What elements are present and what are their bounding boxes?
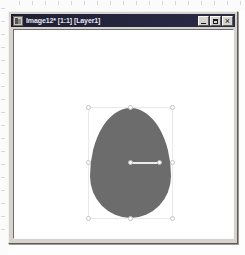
- window-controls: [198, 16, 234, 26]
- maximize-icon[interactable]: [210, 16, 221, 26]
- ruler-tick: [1, 229, 5, 230]
- rotation-pivot-knob-handle[interactable]: [157, 160, 162, 165]
- ruler-tick: [1, 151, 5, 152]
- ruler-tick: [136, 1, 137, 5]
- ruler-tick: [240, 1, 241, 5]
- ruler-tick: [1, 216, 5, 217]
- resize-handle-bottom-center[interactable]: [128, 216, 133, 221]
- ruler-tick: [149, 1, 150, 5]
- ruler-tick: [1, 164, 5, 165]
- resize-handle-bottom-left[interactable]: [86, 216, 91, 221]
- ruler-tick: [201, 1, 202, 5]
- ruler-tick: [214, 1, 215, 5]
- selected-object-group[interactable]: [88, 107, 173, 219]
- ruler-tick: [123, 1, 124, 5]
- ruler-tick: [1, 138, 5, 139]
- ruler-tick: [1, 47, 5, 48]
- rotation-pivot-center-handle[interactable]: [128, 160, 133, 165]
- ruler-tick: [1, 99, 5, 100]
- ruler-tick: [175, 1, 176, 5]
- ruler-tick: [32, 1, 33, 5]
- ruler-tick: [1, 190, 5, 191]
- ruler-tick: [1, 34, 5, 35]
- resize-handle-middle-left[interactable]: [86, 160, 91, 165]
- ruler-tick: [188, 1, 189, 5]
- image-document-icon: [13, 16, 23, 26]
- ruler-tick: [84, 1, 85, 5]
- ruler-tick: [45, 1, 46, 5]
- ruler-tick: [58, 1, 59, 5]
- resize-handle-top-left[interactable]: [86, 105, 91, 110]
- ruler-tick: [1, 8, 5, 9]
- application-backdrop: Image12* [1:1] [Layer1]: [0, 0, 245, 255]
- ruler-tick: [1, 73, 5, 74]
- vertical-ruler: [0, 0, 8, 255]
- ruler-tick: [1, 125, 5, 126]
- image-canvas[interactable]: [13, 29, 234, 239]
- horizontal-ruler: [0, 0, 245, 11]
- ruler-tick: [162, 1, 163, 5]
- window-titlebar[interactable]: Image12* [1:1] [Layer1]: [11, 14, 235, 27]
- rotation-pivot-arm: [131, 162, 159, 164]
- resize-handle-top-right[interactable]: [170, 105, 175, 110]
- ruler-tick: [1, 60, 5, 61]
- ruler-tick: [227, 1, 228, 5]
- rotation-pivot[interactable]: [128, 160, 162, 166]
- image-document-window: Image12* [1:1] [Layer1]: [8, 11, 238, 244]
- ruler-tick: [1, 112, 5, 113]
- ruler-tick: [97, 1, 98, 5]
- resize-handle-top-center[interactable]: [128, 105, 133, 110]
- resize-handle-middle-right[interactable]: [170, 160, 175, 165]
- ruler-tick: [110, 1, 111, 5]
- close-icon[interactable]: [222, 16, 233, 26]
- ruler-tick: [1, 177, 5, 178]
- ruler-tick: [1, 86, 5, 87]
- resize-handle-bottom-right[interactable]: [170, 216, 175, 221]
- window-title: Image12* [1:1] [Layer1]: [26, 16, 198, 25]
- ruler-tick: [1, 21, 5, 22]
- ruler-tick: [1, 203, 5, 204]
- ruler-tick: [71, 1, 72, 5]
- minimize-icon[interactable]: [198, 16, 209, 26]
- ruler-tick: [19, 1, 20, 5]
